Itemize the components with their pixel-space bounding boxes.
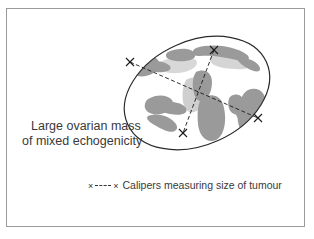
mass-label-line-1: Large ovarian mass xyxy=(31,119,141,134)
figure-page: ovarian mass xyxy=(0,0,314,239)
legend-label: Calipers measuring size of tumour xyxy=(123,180,282,191)
caliper-marker-left xyxy=(126,58,134,66)
blob-bottom-left xyxy=(147,114,177,131)
caliper-marker-bottom xyxy=(179,129,187,137)
blob-top-left xyxy=(166,49,195,61)
caliper-marker-right xyxy=(254,114,262,122)
mass-label-line-2: of mixed echogenicity xyxy=(22,134,142,149)
blob-right-large xyxy=(238,89,266,134)
legend-x-marker-right: × xyxy=(113,181,118,191)
legend-x-marker-left: × xyxy=(88,181,93,191)
legend-dashed-line xyxy=(95,185,111,187)
caliper-legend: × × Calipers measuring size of tumour xyxy=(88,180,282,191)
